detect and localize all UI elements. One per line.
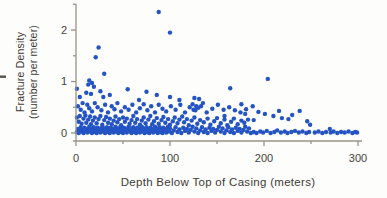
data-point [205, 116, 209, 120]
data-point [308, 123, 312, 127]
data-point [178, 103, 182, 107]
data-point [101, 95, 105, 99]
data-point [157, 103, 161, 107]
x-tick-label-200: 200 [255, 152, 273, 164]
data-point [297, 130, 301, 134]
data-point [339, 130, 343, 134]
data-point [293, 129, 297, 133]
data-point [119, 109, 123, 113]
y-tick-label-0: 0 [61, 127, 67, 139]
axes [71, 4, 362, 146]
data-point [89, 92, 93, 96]
data-point [195, 122, 199, 126]
data-point [126, 87, 130, 91]
data-point [129, 118, 133, 122]
data-point [142, 102, 146, 106]
data-point [221, 108, 225, 112]
data-point [125, 116, 129, 120]
data-point [79, 108, 83, 112]
data-point [80, 101, 84, 105]
data-point [164, 109, 168, 113]
data-point [222, 117, 226, 121]
data-point [232, 116, 236, 120]
data-point [228, 86, 232, 90]
data-point [111, 118, 115, 122]
data-point [117, 117, 121, 121]
data-point [130, 103, 134, 107]
data-point [246, 117, 250, 121]
data-point [300, 129, 304, 133]
data-point [138, 106, 142, 110]
data-point [256, 110, 260, 114]
data-point [95, 121, 99, 125]
data-point [94, 55, 98, 59]
data-point [160, 107, 164, 111]
data-point [192, 96, 196, 100]
data-point [121, 115, 125, 119]
data-point [173, 125, 177, 129]
x-tick-label-100: 100 [161, 152, 179, 164]
data-point [252, 118, 256, 122]
data-point [247, 126, 251, 130]
data-point [113, 114, 117, 118]
data-point [226, 125, 230, 129]
x-tick-label-0: 0 [73, 152, 79, 164]
data-point [265, 129, 269, 133]
data-point [95, 105, 99, 109]
data-point [335, 131, 339, 135]
data-point [266, 77, 270, 81]
data-point [305, 119, 309, 123]
data-point [243, 112, 247, 116]
data-point [155, 93, 159, 97]
data-point [169, 104, 173, 108]
data-point [242, 121, 246, 125]
y-tick-label-1: 1 [61, 75, 67, 87]
data-point [137, 98, 141, 102]
data-point [108, 116, 112, 120]
data-point [83, 113, 87, 117]
data-point [179, 131, 183, 135]
data-point [90, 109, 94, 113]
data-point [180, 114, 184, 118]
data-point [298, 109, 302, 113]
data-point [173, 115, 177, 119]
page-edge-artifact [0, 76, 6, 78]
chart-canvas: 0 100 200 300 0 1 2 Depth Below Top of C… [0, 0, 387, 198]
data-point [84, 91, 88, 95]
data-point [142, 115, 146, 119]
y-axis-label-line2: (number per meter) [27, 25, 39, 119]
data-point [194, 126, 198, 130]
data-point [289, 130, 293, 134]
y-tick-label-2: 2 [61, 24, 67, 36]
data-point [108, 93, 112, 97]
data-point [290, 113, 294, 117]
data-point [103, 103, 107, 107]
data-point [320, 131, 324, 135]
data-point [313, 130, 317, 134]
data-point [239, 102, 243, 106]
data-point [307, 130, 311, 134]
data-point [271, 114, 275, 118]
data-point [157, 10, 161, 14]
fracture-density-scatter-figure: 0 100 200 300 0 1 2 Depth Below Top of C… [0, 0, 387, 198]
data-point [161, 115, 165, 119]
data-point [268, 131, 272, 135]
data-point [198, 118, 202, 122]
data-point [183, 110, 187, 114]
data-point [177, 98, 181, 102]
data-point [153, 110, 157, 114]
data-point [324, 130, 328, 134]
data-point [216, 103, 220, 107]
data-point [188, 105, 192, 109]
data-point [215, 116, 219, 120]
data-point [185, 117, 189, 121]
data-point [243, 125, 247, 129]
data-point [173, 108, 177, 112]
data-point [244, 107, 248, 111]
data-point [205, 110, 209, 114]
data-point [277, 109, 281, 113]
y-axis-label-line1: Fracture Density [14, 31, 26, 112]
data-point [98, 89, 102, 93]
data-point [143, 121, 147, 125]
data-point [149, 104, 153, 108]
